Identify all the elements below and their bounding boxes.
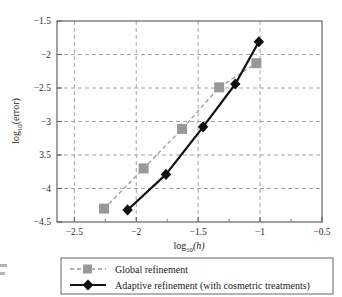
- page-edge-artifact: [0, 264, 7, 267]
- x-tick-label: −1.5: [190, 227, 207, 237]
- square-marker: [139, 163, 149, 173]
- x-tick-label: −0.5: [313, 227, 330, 237]
- y-tick-label: −4.5: [34, 217, 51, 227]
- y-tick-label: −3: [41, 117, 51, 127]
- legend-label-adaptive: Adaptive refinement (with cosmetric trea…: [115, 280, 310, 292]
- square-marker: [99, 204, 109, 214]
- square-marker: [214, 82, 224, 92]
- y-tick-label: −4: [41, 184, 51, 194]
- x-tick-label: −2.5: [66, 227, 83, 237]
- y-axis-title: log10(error): [10, 98, 23, 144]
- y-tick-label: −2.5: [34, 83, 51, 93]
- y-tick-label: −2: [41, 50, 51, 60]
- x-axis-tick-labels: −2.5−2−1.5−1−0.5: [66, 227, 331, 237]
- figure-container: −2.5−2−1.5−1−0.5 −1.5−2−2.5−33.5−4−4.5 l…: [0, 0, 342, 297]
- legend-label-global: Global refinement: [115, 264, 188, 275]
- square-marker: [177, 124, 187, 134]
- x-tick-label: −2: [131, 227, 141, 237]
- square-marker: [251, 58, 261, 68]
- scientific-line-chart: −2.5−2−1.5−1−0.5 −1.5−2−2.5−33.5−4−4.5 l…: [0, 0, 342, 297]
- y-axis-tick-labels: −1.5−2−2.5−33.5−4−4.5: [34, 16, 51, 227]
- x-tick-label: −1: [255, 227, 265, 237]
- y-tick-label: 3.5: [39, 150, 51, 160]
- page-edge-artifact-2: [0, 272, 5, 275]
- y-tick-label: −1.5: [34, 16, 51, 26]
- x-axis-title: log10(h): [173, 240, 205, 253]
- square-marker-icon: [83, 265, 92, 274]
- legend: Global refinement Adaptive refinement (w…: [61, 258, 333, 294]
- legend-item-global[interactable]: Global refinement: [70, 264, 188, 275]
